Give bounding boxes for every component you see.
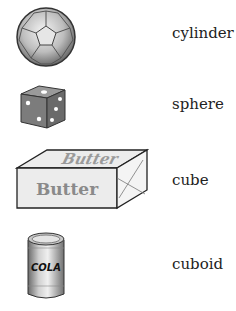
shape-label-3: cube [172,171,209,189]
shape-label-4: cuboid [172,255,223,273]
cola-text: COLA [31,262,61,273]
dice-icon [17,82,69,130]
shape-label-1: cylinder [172,24,234,42]
soccer-ball-icon [15,6,77,68]
cola-can-icon: COLA [25,230,67,302]
shape-label-2: sphere [172,95,224,113]
butter-front-text: Butter [36,179,99,199]
butter-top-text: Butter [59,150,120,168]
butter-box-icon: Butter Butter [15,148,149,210]
